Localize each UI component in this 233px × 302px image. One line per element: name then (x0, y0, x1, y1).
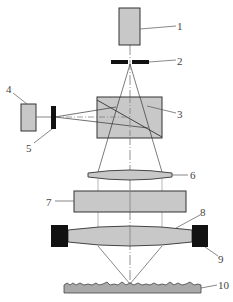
aperture-right-bar (132, 60, 149, 64)
component-4-detector (21, 104, 36, 131)
aperture-left-bar (111, 60, 128, 64)
label-2: 2 (177, 55, 183, 67)
component-9-mount-left (51, 225, 68, 247)
leader-10 (201, 285, 217, 288)
leader-1 (140, 26, 176, 29)
label-7: 7 (46, 196, 52, 208)
component-6-lens (88, 170, 172, 180)
optical-diagram: 1 2 3 4 5 6 7 8 9 (0, 0, 233, 302)
component-10-sample (64, 282, 201, 293)
label-6: 6 (190, 169, 196, 181)
component-1-box (119, 8, 140, 45)
label-10: 10 (218, 279, 230, 291)
label-1: 1 (177, 20, 183, 32)
focus-ray-left (98, 246, 130, 284)
component-5-pinhole (51, 106, 56, 129)
leader-2 (149, 60, 176, 62)
label-9: 9 (218, 253, 224, 265)
leader-9 (205, 247, 218, 256)
label-8: 8 (200, 206, 206, 218)
leader-5 (34, 129, 52, 143)
component-9-mount-right (192, 225, 208, 247)
leader-4 (13, 93, 27, 104)
label-4: 4 (6, 83, 12, 95)
focus-ray-right (130, 246, 162, 284)
label-3: 3 (177, 108, 183, 120)
label-5: 5 (26, 142, 32, 154)
